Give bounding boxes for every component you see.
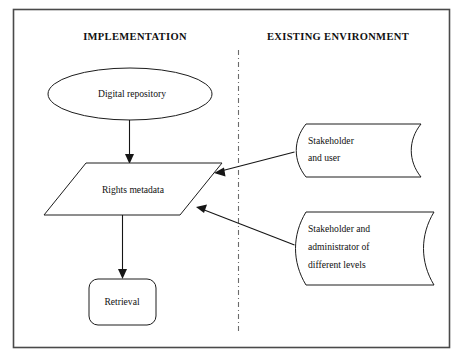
node-digital-repository-label: Digital repository <box>98 88 166 99</box>
node-rights-metadata-label: Rights metadata <box>102 184 165 195</box>
node-stakeholder-and-user[interactable] <box>296 124 421 177</box>
column-heading-implementation: IMPLEMENTATION <box>83 31 187 42</box>
edge-metadata-to-retrieval-arrowhead <box>118 269 127 279</box>
column-heading-existing-environment: EXISTING ENVIRONMENT <box>267 31 409 42</box>
edge-administrator-to-metadata <box>203 210 295 246</box>
node-stakeholder-and-user-label-line1: Stakeholder <box>308 135 355 146</box>
diagram-figure: IMPLEMENTATION EXISTING ENVIRONMENT Digi… <box>0 0 467 359</box>
node-stakeholder-and-administrator-label-line1: Stakeholder and <box>308 223 370 234</box>
edge-user-to-metadata <box>221 152 295 171</box>
node-stakeholder-and-user-label-line2: and user <box>308 152 341 163</box>
edge-administrator-to-metadata-arrowhead <box>196 205 207 214</box>
node-stakeholder-and-administrator-label-line3: different levels <box>308 259 366 270</box>
diagram-canvas: IMPLEMENTATION EXISTING ENVIRONMENT Digi… <box>0 0 467 359</box>
node-retrieval-label: Retrieval <box>104 296 139 307</box>
node-stakeholder-and-administrator-label-line2: administrator of <box>308 241 370 252</box>
